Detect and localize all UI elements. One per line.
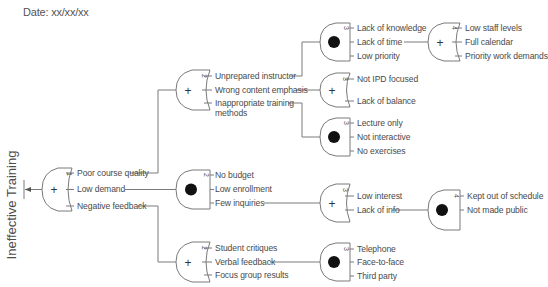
event-student-critiques: Student critiques: [215, 243, 277, 253]
gate-level-number: 4: [453, 194, 460, 198]
event-poor-course-quality: Poor course quality: [77, 168, 149, 178]
event-not-ipd-focused: Not IPD focused: [357, 74, 418, 84]
gate-level-number: 2: [203, 173, 210, 177]
event-no-budget: No budget: [215, 170, 254, 180]
event-low-staff-levels: Low staff levels: [465, 23, 522, 33]
gate-level-number: 3: [342, 188, 349, 192]
or-symbol-icon: +: [184, 84, 191, 98]
gate-level-number: 4: [451, 26, 458, 30]
gate-level-number: 2: [201, 74, 208, 78]
event-lack-of-time: Lack of time: [357, 37, 402, 47]
event-lack-of-balance: Lack of balance: [357, 96, 416, 106]
and-symbol-icon: [185, 184, 197, 196]
event-telephone: Telephone: [357, 244, 396, 254]
event-lack-of-info: Lack of info: [357, 205, 400, 215]
gate-level-number: 3: [343, 26, 350, 30]
event-third-party: Third party: [357, 271, 397, 281]
event-lack-of-knowledge: Lack of knowledge: [357, 23, 426, 33]
event-no-exercises: No exercises: [357, 146, 405, 156]
event-low-enrollment: Low enrollment: [215, 184, 272, 194]
event-unprepared-instructor: Unprepared instructor: [215, 71, 296, 81]
event-low-interest: Low interest: [357, 191, 402, 201]
and-symbol-icon: [436, 204, 448, 216]
or-symbol-icon: +: [184, 256, 191, 270]
event-not-interactive: Not interactive: [357, 132, 410, 142]
and-symbol-icon: [328, 256, 340, 268]
event-inappropriate-training-methods: Inappropriate training: [215, 98, 294, 108]
event-verbal-feedback: Verbal feedback: [215, 257, 275, 267]
event-low-priority: Low priority: [357, 51, 400, 61]
gate-level-number: 1: [66, 172, 73, 176]
event-kept-out-of-schedule: Kept out of schedule: [467, 191, 543, 201]
event-negative-feedback: Negative feedback: [77, 201, 146, 211]
and-symbol-icon: [328, 131, 340, 143]
event-wrong-content-emphasis: Wrong content emphasis: [215, 85, 308, 95]
gate-level-number: 2: [201, 246, 208, 250]
or-symbol-icon: +: [50, 183, 57, 197]
gate-level-number: 3: [343, 121, 350, 125]
or-symbol-icon: +: [328, 84, 335, 98]
event-few-inquiries: Few inquiries: [215, 198, 264, 208]
gate-level-number: 3: [342, 77, 349, 81]
event-focus-group-results: Focus group results: [215, 270, 289, 280]
event-face-to-face: Face-to-face: [357, 257, 404, 267]
event-not-made-public: Not made public: [467, 205, 528, 215]
and-symbol-icon: [328, 36, 340, 48]
event-priority-work-demands: Priority work demands: [465, 51, 548, 61]
or-symbol-icon: +: [328, 197, 335, 211]
event-inappropriate-training-methods-cont: methods: [215, 108, 247, 118]
or-symbol-icon: +: [436, 36, 443, 50]
event-lecture-only: Lecture only: [357, 118, 403, 128]
event-full-calendar: Full calendar: [465, 37, 513, 47]
event-low-demand: Low demand: [77, 184, 125, 194]
gate-level-number: 3: [343, 247, 350, 251]
